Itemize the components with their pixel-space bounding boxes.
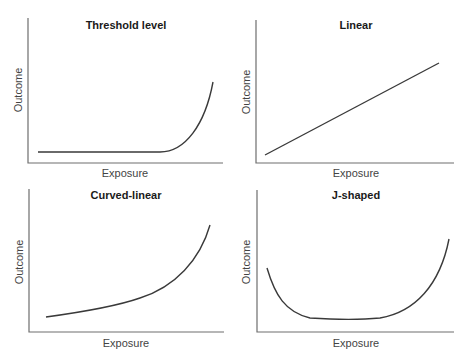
panel-title: J-shaped [332, 189, 380, 201]
panel-title: Threshold level [86, 19, 167, 31]
panel-title: Linear [339, 19, 373, 31]
y-axis-label: Outcome [12, 68, 24, 113]
threshold-curve [38, 82, 213, 152]
y-axis-label: Outcome [240, 70, 252, 115]
figure-four-exposure-outcome-relationships: Threshold level Exposure Outcome Linear … [0, 0, 467, 364]
x-axis-label: Exposure [102, 167, 148, 179]
panel-j-shaped: J-shaped Exposure Outcome [240, 189, 454, 349]
panel-title: Curved-linear [91, 189, 163, 201]
j-shaped-curve [267, 239, 449, 320]
curved-linear-curve [46, 225, 210, 317]
panel-linear: Linear Exposure Outcome [240, 19, 454, 179]
axes [256, 20, 454, 163]
axes [28, 18, 223, 163]
linear-line [265, 63, 439, 155]
x-axis-label: Exposure [333, 337, 379, 349]
x-axis-label: Exposure [103, 337, 149, 349]
panel-threshold-level: Threshold level Exposure Outcome [12, 18, 223, 179]
axes [257, 190, 454, 332]
y-axis-label: Outcome [13, 240, 25, 285]
panel-curved-linear: Curved-linear Exposure Outcome [13, 189, 224, 349]
axes [29, 189, 224, 332]
x-axis-label: Exposure [333, 167, 379, 179]
y-axis-label: Outcome [240, 240, 252, 285]
